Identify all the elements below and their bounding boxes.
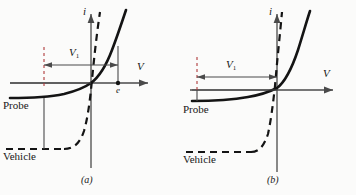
- panel-b: i V V1 Probe Vehicle (b): [178, 0, 356, 195]
- axis-i-label: i: [83, 6, 86, 17]
- axis-i-label: i: [269, 6, 272, 17]
- v1-span-label: V1: [69, 47, 79, 58]
- axis-v-label: V: [137, 61, 144, 72]
- i-axis: [88, 14, 95, 168]
- v1-span-label: V1: [226, 59, 236, 70]
- probe-label: Probe: [183, 104, 209, 115]
- vehicle-label: Vehicle: [183, 154, 216, 165]
- panel-caption: (a): [81, 175, 93, 185]
- vehicle-label: Vehicle: [3, 151, 36, 162]
- operating-point-label: e: [116, 86, 120, 95]
- v1-span-arrow: [197, 74, 277, 80]
- axis-v-label: V: [323, 68, 330, 79]
- panel-caption: (b): [267, 175, 279, 185]
- probe-characteristic-curve: [192, 11, 310, 101]
- figure-root: i V V1 Probe Vehicle e (a): [0, 0, 356, 195]
- probe-label: Probe: [3, 100, 29, 111]
- panel-a: i V V1 Probe Vehicle e (a): [0, 0, 178, 195]
- probe-characteristic-curve: [10, 10, 126, 98]
